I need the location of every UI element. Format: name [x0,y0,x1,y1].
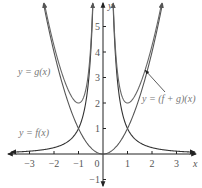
label-fg: y = (f + g)(x) [141,93,196,105]
curve-f-right [113,4,195,153]
y-tick-label: 3 [95,72,100,83]
y-tick-label: 5 [95,21,100,32]
origin-label: 0 [95,158,100,169]
fg-pointer-arrow [145,70,165,92]
curve-fg-right [113,4,161,103]
x-tick-label: 3 [174,158,179,169]
y-tick-label: −1 [89,174,100,185]
x-tick-label: 2 [150,158,155,169]
y-tick-label: 2 [95,98,100,109]
x-tick-label: −1 [73,158,84,169]
x-tick-label: −2 [49,158,60,169]
y-tick-label: 1 [95,123,100,134]
x-tick-label: −3 [24,158,35,169]
x-axis-label: x [192,158,198,169]
y-tick-label: 4 [95,47,100,58]
curve-fg-left [44,4,92,103]
y-axis-label: y [107,0,113,11]
function-graph: −3−2−1123012345−1 y x y = g(x) y = f(x) … [0,0,202,188]
label-f: y = f(x) [18,127,50,139]
label-g: y = g(x) [17,66,51,78]
x-tick-label: 1 [125,158,130,169]
